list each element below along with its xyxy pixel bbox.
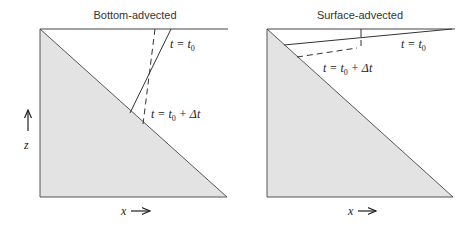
dashed-line-label: t = t0 + Δt (323, 61, 373, 77)
dashed-line-label: t = t0 + Δt (151, 107, 201, 123)
x-axis-label: x (120, 204, 127, 218)
x-axis-label: x (347, 204, 354, 218)
panel-title: Bottom-advected (93, 9, 176, 21)
isochron-dashed (297, 48, 357, 57)
panel-title: Surface-advected (317, 9, 403, 21)
solid-line-label: t = t0 (170, 37, 195, 53)
z-axis-label: z (23, 138, 29, 152)
panel-surface-advected: Surface-advected t = t0 t = t0 + Δt x (267, 9, 455, 218)
isochron-solid (284, 29, 452, 45)
diagram-canvas: Bottom-advected t = t0 t = t0 + Δt z x S… (0, 0, 473, 237)
wedge-shape (267, 29, 453, 197)
panel-bottom-advected: Bottom-advected t = t0 t = t0 + Δt z x (23, 9, 228, 218)
solid-line-label: t = t0 (401, 37, 426, 53)
isochron-solid (130, 29, 171, 113)
